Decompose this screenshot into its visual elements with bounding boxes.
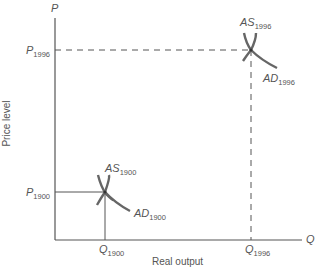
equilibrium-1900 <box>104 191 107 194</box>
ad1996-curve <box>251 50 277 68</box>
q1996-label: Q1996 <box>245 243 270 258</box>
ad1900-curve <box>105 192 130 211</box>
p1996-label: P1996 <box>26 44 50 59</box>
y-axis-symbol: P <box>51 2 58 14</box>
y-axis-title: Price level <box>1 100 12 146</box>
diagram-graphics <box>0 0 323 275</box>
as1996-curve <box>244 33 251 50</box>
as1996-label: AS1996 <box>240 16 271 31</box>
ad1996-label: AD1996 <box>263 72 295 87</box>
as-ad-diagram: P Q Price level Real output P1996 AS1996… <box>0 0 323 275</box>
p1900-label: P1900 <box>26 186 50 201</box>
x-axis-title: Real output <box>152 256 203 267</box>
as1900-label: AS1900 <box>105 162 136 177</box>
equilibrium-1996 <box>250 49 253 52</box>
ad1900-label: AD1900 <box>134 207 166 222</box>
x-axis-symbol: Q <box>306 233 315 245</box>
q1900-label: Q1900 <box>99 243 124 258</box>
